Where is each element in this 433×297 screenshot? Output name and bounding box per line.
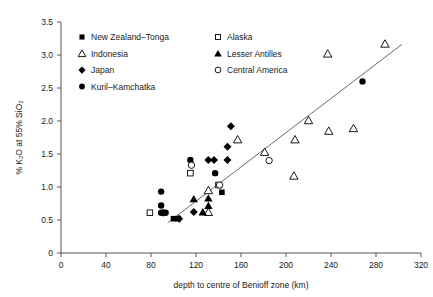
- open-triangle-marker: [290, 172, 298, 179]
- open-triangle-marker: [349, 124, 357, 131]
- x-tick-label: 0: [59, 260, 64, 270]
- x-tick-label: 120: [189, 260, 203, 270]
- filled-diamond-marker: [78, 66, 85, 73]
- legend-item-alaska: Alaska: [215, 32, 252, 42]
- open-triangle-marker: [381, 40, 389, 47]
- legend-item-new-zealand-tonga: New Zealand–Tonga: [79, 32, 169, 42]
- filled-circle-marker: [158, 188, 164, 194]
- open-triangle-marker: [323, 50, 331, 57]
- legend-label: Kuril–Kamchatka: [91, 82, 156, 92]
- y-tick-label: 0.5: [41, 215, 53, 225]
- series-japan: [159, 122, 235, 222]
- chart-container: 0408012016020024028032000.51.01.52.02.53…: [0, 0, 433, 297]
- x-tick-label: 280: [369, 260, 383, 270]
- filled-square-marker: [219, 189, 225, 195]
- open-square-marker: [147, 210, 153, 216]
- x-tick-label: 200: [279, 260, 293, 270]
- filled-diamond-marker: [190, 208, 198, 216]
- filled-triangle-marker: [204, 194, 212, 201]
- filled-diamond-marker: [227, 122, 235, 130]
- open-circle-marker: [266, 157, 272, 163]
- x-tick-label: 160: [234, 260, 248, 270]
- open-triangle-marker: [291, 135, 299, 142]
- legend-label: Alaska: [227, 32, 253, 42]
- filled-triangle-marker: [204, 201, 212, 208]
- open-triangle-marker: [233, 135, 241, 142]
- filled-circle-marker: [162, 210, 168, 216]
- filled-triangle-marker: [199, 208, 207, 215]
- y-tick-label: 2.5: [41, 83, 53, 93]
- filled-circle-marker: [212, 170, 218, 176]
- filled-diamond-marker: [210, 156, 218, 164]
- legend-label: Indonesia: [91, 49, 128, 59]
- open-circle-marker: [188, 162, 194, 168]
- open-triangle-marker: [325, 127, 333, 134]
- filled-diamond-marker: [224, 143, 232, 151]
- y-tick-label: 1.0: [41, 182, 53, 192]
- y-tick-label: 2.0: [41, 116, 53, 126]
- open-square-marker: [215, 34, 220, 39]
- open-circle-marker: [215, 67, 221, 73]
- filled-circle-marker: [79, 84, 85, 90]
- scatter-plot: 0408012016020024028032000.51.01.52.02.53…: [0, 0, 433, 297]
- y-tick-label: 1.5: [41, 149, 53, 159]
- y-tick-label: 3.5: [41, 17, 53, 27]
- y-tick-label: 3.0: [41, 50, 53, 60]
- x-tick-label: 40: [101, 260, 111, 270]
- series-central-america: [188, 157, 272, 188]
- filled-triangle-marker: [214, 50, 222, 57]
- y-tick-label: 0: [48, 248, 53, 258]
- legend: New Zealand–TongaIndonesiaJapanKuril–Kam…: [78, 32, 288, 92]
- x-tick-label: 320: [414, 260, 428, 270]
- legend-item-japan: Japan: [78, 65, 114, 75]
- series-kuril-kamchatka: [158, 78, 366, 216]
- legend-label: New Zealand–Tonga: [91, 32, 169, 42]
- legend-label: Japan: [91, 65, 114, 75]
- open-triangle-marker: [78, 50, 86, 57]
- open-square-marker: [188, 170, 194, 176]
- filled-circle-marker: [158, 202, 164, 208]
- filled-diamond-marker: [224, 156, 232, 164]
- filled-square-marker: [79, 34, 84, 39]
- x-axis-title: depth to centre of Benioff zone (km): [174, 280, 309, 290]
- y-axis-title: % K₂O at 55% SiO₂: [14, 100, 24, 174]
- filled-triangle-marker: [190, 195, 198, 202]
- x-tick-label: 240: [324, 260, 338, 270]
- x-tick-label: 80: [146, 260, 156, 270]
- filled-circle-marker: [359, 78, 365, 84]
- legend-label: Central America: [227, 65, 288, 75]
- legend-label: Lesser Antilles: [227, 49, 282, 59]
- legend-item-lesser-antilles: Lesser Antilles: [214, 49, 282, 59]
- legend-item-indonesia: Indonesia: [78, 49, 128, 59]
- open-circle-marker: [216, 182, 222, 188]
- legend-item-central-america: Central America: [215, 65, 288, 75]
- legend-item-kuril-kamchatka: Kuril–Kamchatka: [79, 82, 155, 92]
